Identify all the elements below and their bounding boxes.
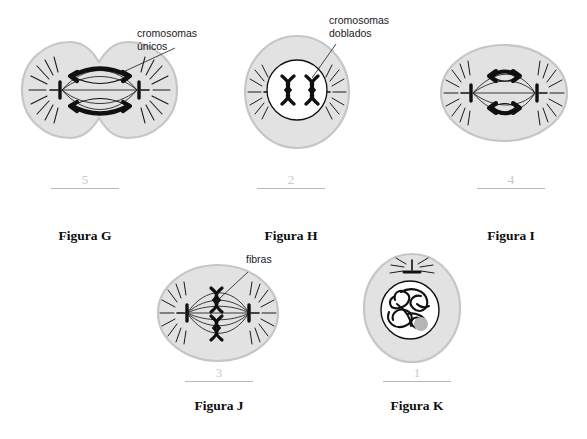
annotation-line-2: doblados — [329, 27, 389, 40]
figure-label-figura-k: Figura K — [367, 398, 467, 414]
number-slot-figura-i[interactable]: 4 — [477, 172, 545, 189]
answer-rule — [477, 188, 545, 189]
number-slot-figura-j[interactable]: 3 — [185, 365, 253, 382]
figure-cell-figura-i — [432, 38, 577, 150]
annotation-fibras: fibras — [246, 253, 272, 266]
number-value: 3 — [185, 365, 253, 380]
annotation-cromosomas-doblados: cromosomas doblados — [329, 14, 389, 40]
nucleolus — [414, 317, 428, 331]
answer-rule — [257, 188, 325, 189]
annotation-cromosomas-unicos: cromosomas únicos — [137, 27, 197, 53]
figura-i-illustration — [432, 38, 577, 150]
figura-h-illustration — [232, 28, 362, 156]
number-slot-figura-k[interactable]: 1 — [383, 365, 451, 382]
figure-label-figura-h: Figura H — [241, 228, 341, 244]
number-value: 5 — [51, 172, 119, 187]
annotation-line-2: únicos — [137, 40, 197, 53]
annotation-line-1: cromosomas — [137, 27, 197, 40]
figure-cell-figura-h — [232, 28, 362, 156]
figure-label-figura-j: Figura J — [169, 398, 269, 414]
figura-k-illustration — [355, 248, 470, 368]
answer-rule — [383, 381, 451, 382]
number-value: 4 — [477, 172, 545, 187]
answer-rule — [51, 188, 119, 189]
figure-label-figura-g: Figura G — [35, 228, 135, 244]
annotation-line-1: fibras — [246, 253, 272, 266]
number-value: 1 — [383, 365, 451, 380]
diagram-canvas: cromosomas únicos 5 Figura G — [0, 0, 587, 439]
number-slot-figura-h[interactable]: 2 — [257, 172, 325, 189]
number-slot-figura-g[interactable]: 5 — [51, 172, 119, 189]
answer-rule — [185, 381, 253, 382]
figure-cell-figura-k — [355, 248, 470, 368]
figure-label-figura-i: Figura I — [461, 228, 561, 244]
number-value: 2 — [257, 172, 325, 187]
annotation-line-1: cromosomas — [329, 14, 389, 27]
figure-cell-figura-j — [148, 258, 288, 368]
figura-j-illustration — [148, 258, 288, 368]
